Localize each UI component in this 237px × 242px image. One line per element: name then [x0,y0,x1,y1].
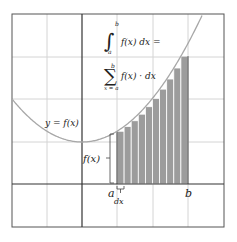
riemann-bar [124,126,131,184]
riemann-bar [145,107,152,184]
riemann-bar [174,68,181,184]
riemann-bar [160,89,167,184]
frame [12,14,224,227]
integral-expression: f(x) dx = [120,37,161,47]
grid [12,14,224,227]
dx-label: dx [114,197,124,206]
b-label: b [185,187,192,200]
riemann-bar [167,79,174,184]
a-label: a [108,187,115,200]
riemann-bar [131,121,138,184]
riemann-bar [138,114,145,184]
curve-label: y = f(x) [44,118,79,128]
dx-bracket [117,186,124,193]
riemann-sum-diagram: f(x) dx a b y = f(x) ∫ b a f(x) dx = ∑ b… [0,0,237,242]
height-label: f(x) [82,153,100,164]
sum-upper-limit: b [111,62,115,69]
riemann-bar [153,98,160,184]
integral-upper-limit: b [115,20,119,27]
riemann-bar [181,56,188,184]
sum-lower-limit: x = a [104,85,119,91]
integral-lower-limit: a [108,48,112,55]
height-bracket [106,134,114,183]
sum-expression: f(x) · dx [120,71,156,81]
riemann-bar [117,131,124,184]
